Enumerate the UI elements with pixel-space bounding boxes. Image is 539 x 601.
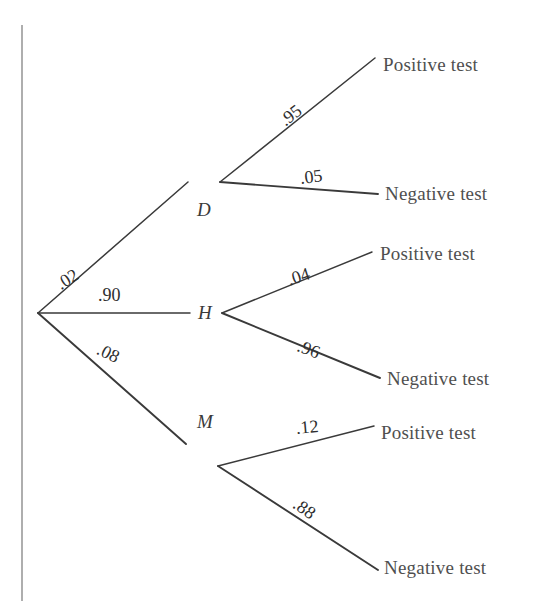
node-label-H: H — [198, 302, 212, 324]
node-label-M: M — [197, 411, 213, 433]
outcome-label-D-positive: Positive test — [383, 54, 478, 76]
level2-branch-group — [218, 58, 380, 570]
outcome-label-D-negative: Negative test — [385, 183, 487, 205]
probability-label-D-negative: .05 — [299, 165, 324, 189]
tree-branch-lines — [0, 0, 539, 601]
outcome-label-H-negative: Negative test — [387, 368, 489, 390]
probability-label-M-positive: .12 — [295, 416, 319, 439]
branch-line-root-to-M — [38, 313, 186, 444]
branch-line-D-to-negative — [220, 182, 378, 194]
outcome-label-M-negative: Negative test — [384, 557, 486, 579]
probability-label-root-H: .90 — [98, 285, 121, 306]
level1-branch-group — [38, 182, 190, 444]
outcome-label-H-positive: Positive test — [380, 243, 475, 265]
outcome-label-M-positive: Positive test — [381, 422, 476, 444]
tree-diagram-canvas: DHM .02.90.08.95.05.04.96.12.88 Positive… — [0, 0, 539, 601]
node-label-D: D — [197, 199, 211, 221]
